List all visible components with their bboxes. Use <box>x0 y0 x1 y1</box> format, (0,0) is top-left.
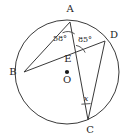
circle-geometry-diagram: A B C D E O 58° 85° x <box>0 0 131 138</box>
point-label-c: C <box>86 124 94 135</box>
angle-label-at-e: 85° <box>78 35 92 44</box>
point-label-b: B <box>9 66 16 77</box>
geometry-canvas: A B C D E O 58° 85° x <box>0 0 131 138</box>
point-label-d: D <box>110 29 118 40</box>
chord-ab <box>24 22 70 72</box>
angle-label-at-c: x <box>84 94 89 103</box>
angle-label-at-a: 58° <box>53 34 67 43</box>
point-label-o: O <box>63 74 71 85</box>
point-label-a: A <box>65 3 74 14</box>
angle-arc-at-c <box>81 104 90 105</box>
chord-dc <box>88 41 105 120</box>
point-label-e: E <box>64 53 71 64</box>
